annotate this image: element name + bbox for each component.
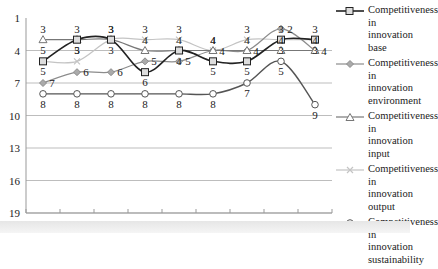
data-label: 5 <box>151 55 157 67</box>
legend-x-marker-icon <box>336 166 364 174</box>
data-label: 8 <box>176 98 182 110</box>
diamond-marker-icon <box>142 58 149 65</box>
data-label: 3 <box>74 23 80 35</box>
data-label: 4 <box>244 34 250 46</box>
data-label: 3 <box>142 23 148 35</box>
data-label: 6 <box>117 66 123 78</box>
data-label: 4 <box>210 34 216 46</box>
circle-marker-icon <box>244 80 251 87</box>
square-marker-icon <box>74 36 81 43</box>
circle-marker-icon <box>142 91 149 98</box>
circle-marker-icon <box>176 91 183 98</box>
square-marker-icon <box>40 58 47 65</box>
legend-square-marker-icon <box>336 7 364 15</box>
diamond-marker-icon <box>40 80 47 87</box>
data-label: 4 <box>321 45 327 57</box>
data-label: 8 <box>210 98 216 110</box>
data-label: 4 <box>253 45 259 57</box>
y-tick-label: 7 <box>15 77 21 89</box>
data-label: 3 <box>40 23 46 35</box>
data-label: 5 <box>74 44 80 56</box>
square-marker-icon <box>176 47 183 54</box>
data-label: 6 <box>83 66 89 78</box>
legend-item-base: Competitiveness in innovation base <box>336 4 410 54</box>
data-label: 4 <box>219 45 225 57</box>
legend-triangle-marker-icon <box>336 113 364 121</box>
y-tick-label: 16 <box>9 175 21 187</box>
data-label: 5 <box>40 65 46 77</box>
data-label: 4 <box>278 34 284 46</box>
square-marker-icon <box>210 58 217 65</box>
y-tick-label: 13 <box>9 142 21 154</box>
data-label: 8 <box>142 98 148 110</box>
legend-item-input: Competitiveness in innovation input <box>336 110 410 160</box>
data-label: 5 <box>210 65 216 77</box>
circle-marker-icon <box>210 91 217 98</box>
legend-label: Competitiveness in innovation output <box>368 163 438 212</box>
data-label: 8 <box>74 98 80 110</box>
data-label: 4 <box>142 34 148 46</box>
y-tick-label: 10 <box>9 110 21 122</box>
square-marker-icon <box>244 58 251 65</box>
data-label: 5 <box>244 65 250 77</box>
legend-label: Competitiveness in innovation environmen… <box>368 57 438 106</box>
circle-marker-icon <box>40 91 47 98</box>
circle-marker-icon <box>74 91 81 98</box>
data-label: 4 <box>176 55 182 67</box>
legend-diamond-marker-icon <box>336 60 364 68</box>
square-marker-icon <box>108 36 115 43</box>
data-label: 3 <box>176 23 182 35</box>
data-label: 5 <box>40 44 46 56</box>
data-label: 7 <box>244 87 250 99</box>
circle-marker-icon <box>278 58 285 65</box>
data-label: 8 <box>40 98 46 110</box>
legend-item-output: Competitiveness in innovation output <box>336 163 410 213</box>
data-label: 8 <box>108 98 114 110</box>
data-label: 3 <box>244 23 250 35</box>
data-label: 6 <box>142 76 148 88</box>
diamond-marker-icon <box>74 69 81 76</box>
legend-label: Competitiveness in innovation input <box>368 110 438 159</box>
y-tick-label: 1 <box>15 12 21 24</box>
data-label: 2 <box>287 23 293 35</box>
legend-label: Competitiveness in innovation base <box>368 4 438 53</box>
y-tick-label: 19 <box>9 207 21 219</box>
circle-marker-icon <box>108 91 115 98</box>
y-tick-label: 4 <box>15 45 21 57</box>
data-label: 3 <box>108 23 114 35</box>
bottom-edge-shadow <box>0 221 410 233</box>
circle-marker-icon <box>312 101 319 108</box>
data-label: 9 <box>312 109 318 121</box>
data-label: 5 <box>185 55 191 67</box>
data-label: 7 <box>49 77 55 89</box>
diamond-marker-icon <box>108 69 115 76</box>
data-label: 5 <box>278 65 284 77</box>
square-marker-icon <box>142 69 149 76</box>
data-label: 3 <box>108 44 114 56</box>
data-label: 3 <box>312 23 318 35</box>
data-label: 4 <box>312 34 318 46</box>
legend-item-environment: Competitiveness in innovation environmen… <box>336 57 410 107</box>
data-label: 3 <box>278 23 284 35</box>
data-label: 4 <box>176 34 182 46</box>
